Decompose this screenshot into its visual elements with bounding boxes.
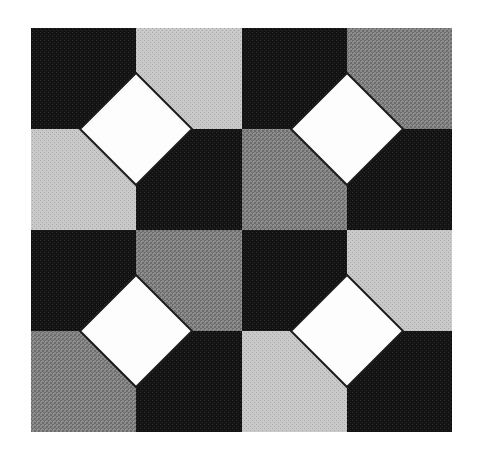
geometric-tiling-figure <box>0 0 477 455</box>
checkerboard-cells <box>31 28 452 432</box>
pattern-canvas <box>0 0 477 455</box>
